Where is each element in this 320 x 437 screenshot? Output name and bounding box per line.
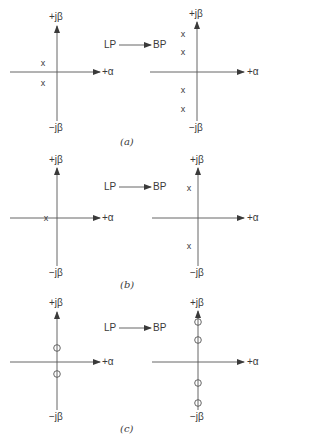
pole-marker: x xyxy=(181,86,186,95)
panel-a-right-neg-imag-label: −jβ xyxy=(189,123,203,133)
panel-c-right-pos-imag-label: +jβ xyxy=(190,298,204,308)
pole-marker: x xyxy=(187,184,192,193)
panel-b-left-pos-imag-label: +jβ xyxy=(49,155,63,165)
panel-c-right-neg-imag-label: −jβ xyxy=(190,412,204,422)
panel-b-right-pos-imag-label: +jβ xyxy=(190,155,204,165)
pole-marker: x xyxy=(44,214,49,223)
panel-a-left-neg-imag-label: −jβ xyxy=(49,123,63,133)
pole-marker: x xyxy=(41,59,46,68)
panel-b-caption: (b) xyxy=(120,280,134,290)
pole-marker: x xyxy=(41,79,46,88)
panel-b-right-pos-real-label: +α xyxy=(247,213,259,223)
panel-a-lp-label: LP xyxy=(104,40,116,50)
panel-c-lp-label: LP xyxy=(104,323,116,333)
panel-c-caption: (c) xyxy=(120,424,133,434)
pole-marker: x xyxy=(187,242,192,251)
panel-c-left-pos-real-label: +α xyxy=(102,357,114,367)
panel-c-left-neg-imag-label: −jβ xyxy=(49,412,63,422)
pole-marker: x xyxy=(181,105,186,114)
panel-b-left-neg-imag-label: −jβ xyxy=(49,268,63,278)
panel-a-right-pos-real-label: +α xyxy=(247,67,259,77)
panel-c-bp-label: BP xyxy=(153,323,166,333)
panel-a-bp-label: BP xyxy=(153,40,166,50)
panel-a-left-pos-imag-label: +jβ xyxy=(49,12,63,22)
panel-a-right-pos-imag-label: +jβ xyxy=(189,9,203,19)
pole-marker: x xyxy=(181,48,186,57)
panel-c-left-pos-imag-label: +jβ xyxy=(49,298,63,308)
panel-b-lp-label: LP xyxy=(104,182,116,192)
panel-a-caption: (a) xyxy=(120,137,134,147)
panel-c-right-pos-real-label: +α xyxy=(247,357,259,367)
panel-a-left-pos-real-label: +α xyxy=(102,67,114,77)
panel-b-left-pos-real-label: +α xyxy=(102,213,114,223)
panel-b-right-neg-imag-label: −jβ xyxy=(190,268,204,278)
pole-marker: x xyxy=(181,30,186,39)
panel-b-bp-label: BP xyxy=(153,182,166,192)
